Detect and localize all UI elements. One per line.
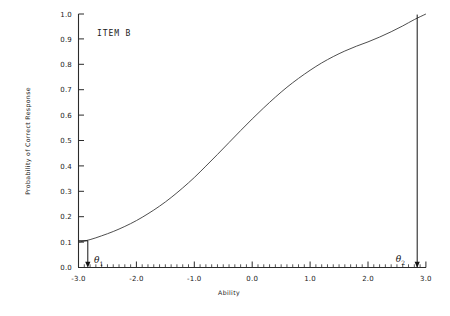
y-tick-label: 0.8	[60, 61, 72, 69]
y-axis-title: Probability of Correct Response	[24, 87, 32, 195]
x-tick-label: -1.0	[187, 275, 201, 283]
y-tick-label: 0.9	[60, 36, 72, 44]
y-tick-label: 0.1	[60, 239, 72, 247]
y-tick-label: 0.3	[60, 188, 72, 196]
x-tick-label: -3.0	[71, 275, 85, 283]
icc-chart: 0.0 0.1 0.2 0.3 0.4 0.5 0.6 0.7 0.8 0.9 …	[0, 0, 450, 316]
y-tick-label: 0.5	[60, 137, 72, 145]
x-tick-label: 0.0	[246, 275, 258, 283]
theta2-label: θ2	[396, 254, 405, 266]
y-tick-label: 0.2	[60, 213, 72, 221]
y-tick-label: 1.0	[60, 11, 72, 19]
x-tick-label: -2.0	[129, 275, 143, 283]
theta2-annotation: θ2	[396, 15, 420, 268]
y-tick-label: 0.0	[60, 264, 72, 272]
theta1-arrowhead	[85, 262, 90, 268]
theta1-label: θ1	[94, 255, 103, 267]
y-axis-tick-labels: 0.0 0.1 0.2 0.3 0.4 0.5 0.6 0.7 0.8 0.9 …	[60, 11, 72, 272]
y-tick-label: 0.6	[60, 112, 72, 120]
item-label: ITEM B	[97, 29, 131, 38]
plot-axes	[78, 14, 426, 268]
theta1-annotation: θ1	[79, 241, 104, 268]
x-tick-label: 1.0	[304, 275, 316, 283]
x-tick-label: 3.0	[420, 275, 432, 283]
y-axis-ticks	[79, 14, 85, 268]
icc-curve-line	[79, 14, 426, 242]
y-tick-label: 0.7	[60, 86, 72, 94]
x-axis-tick-labels: -3.0 -2.0 -1.0 0.0 1.0 2.0 3.0	[71, 275, 432, 283]
x-tick-label: 2.0	[362, 275, 374, 283]
y-tick-label: 0.4	[60, 163, 72, 171]
x-axis-title: Ability	[218, 289, 240, 297]
theta2-arrowhead	[415, 262, 420, 268]
